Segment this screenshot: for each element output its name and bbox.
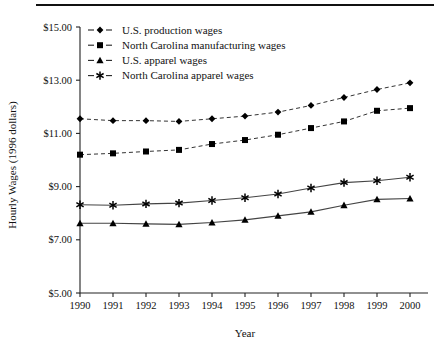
data-point-marker xyxy=(308,125,314,131)
x-tick-label: 1991 xyxy=(103,300,124,311)
data-point-marker xyxy=(275,109,282,116)
data-point-marker xyxy=(275,132,281,138)
data-point-marker xyxy=(242,137,248,143)
data-series xyxy=(76,79,413,227)
data-point-marker xyxy=(308,102,315,109)
legend-marker-square xyxy=(97,42,103,48)
data-point-marker xyxy=(77,115,84,122)
x-tick-label: 1992 xyxy=(136,300,157,311)
y-tick-label: $11.00 xyxy=(44,128,73,139)
y-tick-label: $9.00 xyxy=(48,181,72,192)
x-tick-label: 1999 xyxy=(367,300,388,311)
legend-item-2: U.S. apparel wages xyxy=(88,54,207,66)
x-tick-label: 1990 xyxy=(70,300,91,311)
data-point-marker xyxy=(176,147,182,153)
x-tick-label: 1997 xyxy=(301,300,322,311)
axis-lines xyxy=(80,27,428,293)
data-point-marker xyxy=(209,115,216,122)
series-3 xyxy=(76,173,413,209)
data-point-marker xyxy=(374,108,380,114)
chart-figure: $5.00$7.00$9.00$11.00$13.00$15.00 199019… xyxy=(0,0,439,348)
x-tick-label: 1994 xyxy=(202,300,224,311)
data-point-marker xyxy=(407,105,413,111)
y-axis-tick-labels: $5.00$7.00$9.00$11.00$13.00$15.00 xyxy=(43,22,72,299)
axes xyxy=(76,27,428,297)
data-point-marker xyxy=(77,152,83,158)
data-point-marker xyxy=(143,117,150,124)
y-tick-label: $13.00 xyxy=(43,75,72,86)
x-axis-title: Year xyxy=(235,327,256,339)
x-tick-label: 1993 xyxy=(169,300,190,311)
legend-marker-triangle xyxy=(96,57,103,64)
x-tick-label: 1998 xyxy=(334,300,355,311)
x-tick-label: 1996 xyxy=(268,300,289,311)
legend-item-3: North Carolina apparel wages xyxy=(88,69,254,81)
data-point-marker xyxy=(143,148,149,154)
legend-label: U.S. apparel wages xyxy=(122,54,207,66)
legend-label: U.S. production wages xyxy=(122,24,222,36)
legend-label: North Carolina manufacturing wages xyxy=(122,39,285,51)
data-point-marker xyxy=(242,113,249,120)
chart-legend: U.S. production wagesNorth Carolina manu… xyxy=(88,24,285,82)
x-tick-label: 2000 xyxy=(400,300,421,311)
y-tick-label: $15.00 xyxy=(43,22,72,33)
line-chart: $5.00$7.00$9.00$11.00$13.00$15.00 199019… xyxy=(0,0,439,348)
legend-item-0: U.S. production wages xyxy=(88,24,222,36)
series-0 xyxy=(77,79,414,124)
data-point-marker xyxy=(341,118,347,124)
data-point-marker xyxy=(374,86,381,93)
y-tick-label: $7.00 xyxy=(48,234,72,245)
y-tick-label: $5.00 xyxy=(48,288,72,299)
data-point-marker xyxy=(407,79,414,86)
y-axis-title: Hourly Wages (1996 dollars) xyxy=(6,101,19,229)
data-point-marker xyxy=(110,150,116,156)
data-point-marker xyxy=(176,118,183,125)
legend-marker-diamond xyxy=(97,27,104,34)
legend-marker-asterisk xyxy=(96,71,103,79)
legend-label: North Carolina apparel wages xyxy=(122,69,254,81)
legend-item-1: North Carolina manufacturing wages xyxy=(88,39,285,51)
x-tick-label: 1995 xyxy=(235,300,256,311)
data-point-marker xyxy=(110,117,117,124)
x-axis-tick-labels: 1990199119921993199419951996199719981999… xyxy=(70,300,421,311)
data-point-marker xyxy=(209,141,215,147)
data-point-marker xyxy=(341,94,348,101)
